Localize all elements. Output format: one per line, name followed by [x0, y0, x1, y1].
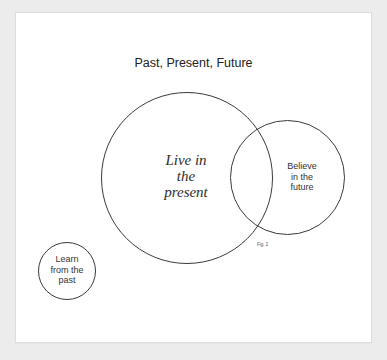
- future-label: Believe in the future: [277, 161, 327, 193]
- present-label: Live in the present: [136, 152, 236, 200]
- past-label: Learn from the past: [38, 254, 96, 286]
- diagram-title: Past, Present, Future: [0, 56, 387, 70]
- figure-caption: Fig. 2: [257, 242, 268, 247]
